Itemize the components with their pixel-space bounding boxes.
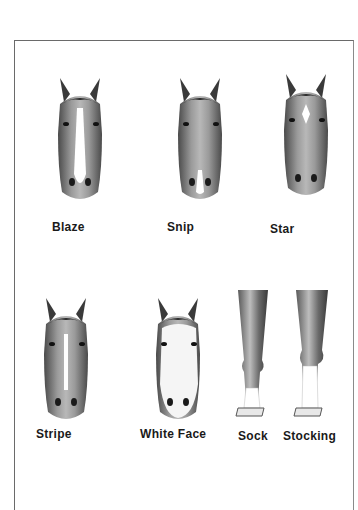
- stripe-label: Stripe: [36, 427, 72, 441]
- stocking-illustration: [290, 290, 338, 422]
- stocking-label: Stocking: [283, 429, 336, 443]
- blaze-label: Blaze: [52, 220, 85, 234]
- snip-illustration: [170, 74, 230, 204]
- snip-label: Snip: [167, 220, 194, 234]
- sock-illustration: [232, 290, 280, 422]
- star-illustration: [276, 70, 336, 200]
- stripe-illustration: [36, 294, 96, 424]
- star-label: Star: [270, 222, 295, 236]
- white-face-label: White Face: [140, 427, 206, 441]
- white-face-illustration: [148, 294, 208, 424]
- sock-label: Sock: [238, 429, 268, 443]
- blaze-illustration: [50, 74, 110, 204]
